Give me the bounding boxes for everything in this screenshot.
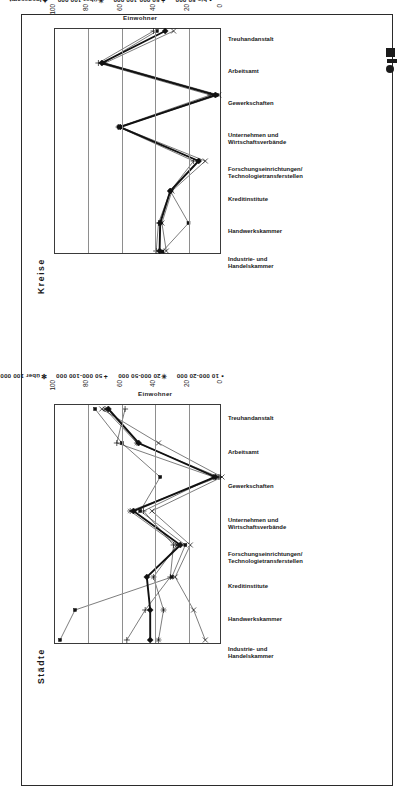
star-marker-icon: ✳ <box>97 0 104 4</box>
gridline <box>88 405 89 643</box>
category-label-unternehmen: Unternehmen undWirtschaftsverbände <box>228 517 286 530</box>
y-tick: 60 <box>116 4 123 26</box>
category-label-treuhand: Treuhandanstalt <box>228 36 274 43</box>
gridline <box>155 29 156 253</box>
legend-item-insgesamt: ✦Insgesamt <box>9 0 48 4</box>
gridline <box>155 405 156 643</box>
legend-title: Einwohner <box>138 390 172 397</box>
plus-marker-icon: + <box>102 373 109 380</box>
chart-kreise-title: Kreise <box>36 258 46 294</box>
legend-item-50-100: +50 000-100 000 <box>113 0 166 4</box>
legend-item-50-100: +50 000-100 000 <box>56 373 109 380</box>
chart-kreise-series <box>55 27 222 253</box>
asterisk-marker-icon: ✻ <box>40 372 47 380</box>
legend-item-10-20: ▪10 000-20 000 <box>176 373 226 380</box>
category-label-industrie: Industrie- undHandelskammer <box>228 646 274 659</box>
category-label-kredit: Kreditinstitute <box>228 196 268 203</box>
chart-kreise-legend: ▪bis 50 000 +50 000-100 000 ✳über 100 00… <box>2 0 214 4</box>
y-tick: 100 <box>49 380 56 402</box>
legend-title: Einwohner <box>123 14 157 21</box>
publisher-mark-icon <box>386 48 400 74</box>
category-label-kredit: Kreditinstitute <box>228 583 268 590</box>
category-label-handwerk: Handwerkskammer <box>228 228 282 235</box>
y-tick: 20 <box>183 380 190 402</box>
y-tick: 80 <box>82 4 89 26</box>
gridline <box>122 29 123 253</box>
y-tick: 0 <box>216 380 223 402</box>
gridline <box>189 29 190 253</box>
y-tick: 100 <box>49 4 56 26</box>
category-label-gewerkschaften: Gewerkschaften <box>228 483 274 490</box>
category-label-unternehmen: Unternehmen undWirtschaftsverbände <box>228 132 286 145</box>
gridline <box>122 405 123 643</box>
category-label-industrie: Industrie- undHandelskammer <box>228 256 274 269</box>
y-tick: 20 <box>183 4 190 26</box>
square-marker-icon: ▪ <box>207 0 214 4</box>
category-label-treuhand: Treuhandanstalt <box>228 415 274 422</box>
legend-item-20-50: ✳20 000-50 000 <box>118 372 168 380</box>
y-tick: 0 <box>216 4 223 26</box>
category-label-arbeitsamt: Arbeitsamt <box>228 68 259 75</box>
category-label-forschung: Forschungseinrichtungen/Technologietrans… <box>228 166 303 179</box>
chart-staedte: Städte <box>28 390 328 690</box>
chart-staedte-series <box>55 403 222 643</box>
legend-item-ueber100: ✻über 100 000 <box>0 372 47 380</box>
y-tick: 80 <box>82 380 89 402</box>
category-label-arbeitsamt: Arbeitsamt <box>228 449 259 456</box>
gridline <box>88 29 89 253</box>
chart-staedte-plot <box>54 404 221 644</box>
category-label-forschung: Forschungseinrichtungen/Technologietrans… <box>228 551 303 564</box>
chart-kreise: Kreise <box>28 10 328 300</box>
category-label-gewerkschaften: Gewerkschaften <box>228 100 274 107</box>
square-marker-icon: ▪ <box>219 373 226 380</box>
gridline <box>189 405 190 643</box>
chart-staedte-title: Städte <box>36 648 46 684</box>
y-tick: 60 <box>116 380 123 402</box>
star-marker-icon: ✳ <box>161 372 168 380</box>
category-label-handwerk: Handwerkskammer <box>228 616 282 623</box>
plus-marker-icon: + <box>159 0 166 4</box>
chart-kreise-plot <box>54 28 221 254</box>
legend-item-bis50: ▪bis 50 000 <box>175 0 214 4</box>
chart-staedte-legend: ▪10 000-20 000 ✳20 000-50 000 +50 000-10… <box>0 372 226 380</box>
diamond-marker-icon: ✦ <box>42 0 49 4</box>
legend-item-ueber100: ✳über 100 000 <box>58 0 105 4</box>
